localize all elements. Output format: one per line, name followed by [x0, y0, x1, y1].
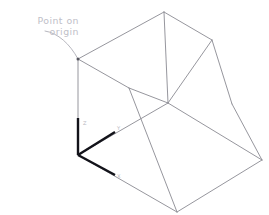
- origin-axis-triad: Z Y X: [78, 118, 121, 179]
- edge-mid-front-to-top-front: [129, 88, 168, 103]
- annotation-line-1: Point on: [7, 16, 79, 27]
- axis-arm-y: [78, 132, 115, 155]
- point-on-origin-annotation: Point on origin: [7, 16, 79, 37]
- solid-edge-group: [78, 12, 262, 212]
- edge-top-front-to-bottom-front: [129, 88, 177, 212]
- axis-label-x: X: [117, 173, 121, 179]
- edge-mid-front-to-bottom-right: [168, 103, 262, 160]
- edge-top-front-to-top-left: [78, 59, 129, 88]
- edge-top-left-to-apex: [78, 12, 164, 59]
- top-left-vertex-marker: [77, 58, 80, 61]
- edge-top-right-to-right-lower: [212, 40, 232, 104]
- edge-bottom-front-to-bottom-right: [177, 160, 262, 212]
- edge-top-right-to-mid-front: [168, 40, 212, 103]
- axis-arm-x: [78, 155, 115, 175]
- edge-right-lower-to-bottom-right: [232, 104, 262, 160]
- annotation-line-2: origin: [7, 27, 79, 38]
- edge-apex-to-top-right: [164, 12, 212, 40]
- edge-apex-to-mid-front: [164, 12, 168, 103]
- axis-label-z: Z: [83, 120, 87, 126]
- drawing-canvas: Z Y X Point on origin: [0, 0, 269, 215]
